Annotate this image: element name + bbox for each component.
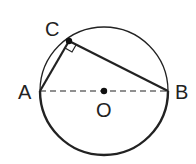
circle-diagram: C A B O bbox=[0, 0, 196, 164]
label-a: A bbox=[18, 81, 32, 103]
label-b: B bbox=[175, 81, 188, 103]
label-c: C bbox=[45, 18, 59, 40]
point-c bbox=[66, 38, 72, 44]
label-o: O bbox=[96, 99, 112, 121]
segment-cb bbox=[69, 41, 168, 91]
point-o bbox=[101, 88, 107, 94]
